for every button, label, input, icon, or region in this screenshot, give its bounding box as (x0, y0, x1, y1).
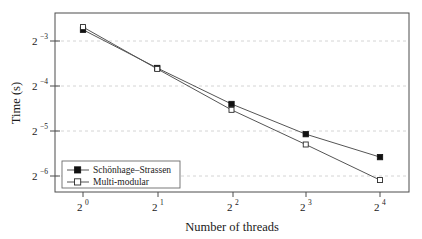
y-tick-label-base-1: 2 (32, 80, 38, 92)
open-square-marker (229, 107, 234, 112)
x-tick-label-base-3: 2 (300, 201, 306, 213)
x-tick-label-exp-2: 2 (235, 198, 239, 207)
x-tick-label-base-0: 2 (77, 201, 83, 213)
filled-square-marker (377, 154, 382, 159)
legend: Schönhage–Strassen Multi-modular (62, 161, 180, 188)
legend-label-1: Multi-modular (93, 177, 150, 187)
filled-square-marker (229, 101, 234, 106)
y-tick-label-base-3: 2 (32, 170, 38, 182)
legend-label-0: Schönhage–Strassen (93, 165, 171, 175)
x-axis-title: Number of threads (185, 220, 279, 234)
x-tick-label-exp-0: 0 (85, 198, 89, 207)
x-tick-label-base-1: 2 (152, 201, 158, 213)
x-tick-label-exp-4: 4 (382, 198, 386, 207)
y-tick-label-base-2: 2 (32, 125, 38, 137)
y-tick-label-exp-1: −4 (40, 77, 48, 86)
x-tick-label-base-4: 2 (374, 201, 380, 213)
y-tick-label-exp-2: −5 (40, 122, 48, 131)
x-tick-label-exp-1: 1 (160, 198, 164, 207)
line-chart: 2 −3 2 −4 2 −5 2 −6 2 0 2 1 2 2 2 3 2 4 … (0, 0, 422, 239)
open-square-marker (378, 178, 383, 183)
filled-square-icon (75, 167, 81, 173)
filled-square-marker (303, 131, 308, 136)
x-tick-label-base-2: 2 (227, 201, 233, 213)
chart-figure: 2 −3 2 −4 2 −5 2 −6 2 0 2 1 2 2 2 3 2 4 … (0, 0, 422, 239)
open-square-marker (155, 66, 160, 71)
open-square-marker (81, 25, 86, 30)
chart-background (0, 0, 422, 239)
open-square-marker (303, 142, 308, 147)
y-tick-label-exp-0: −3 (40, 32, 48, 41)
x-tick-label-exp-3: 3 (308, 198, 312, 207)
open-square-icon (75, 179, 81, 185)
y-axis-title: Time (s) (9, 82, 23, 124)
y-tick-label-base-0: 2 (32, 35, 38, 47)
y-tick-label-exp-3: −6 (40, 167, 48, 176)
